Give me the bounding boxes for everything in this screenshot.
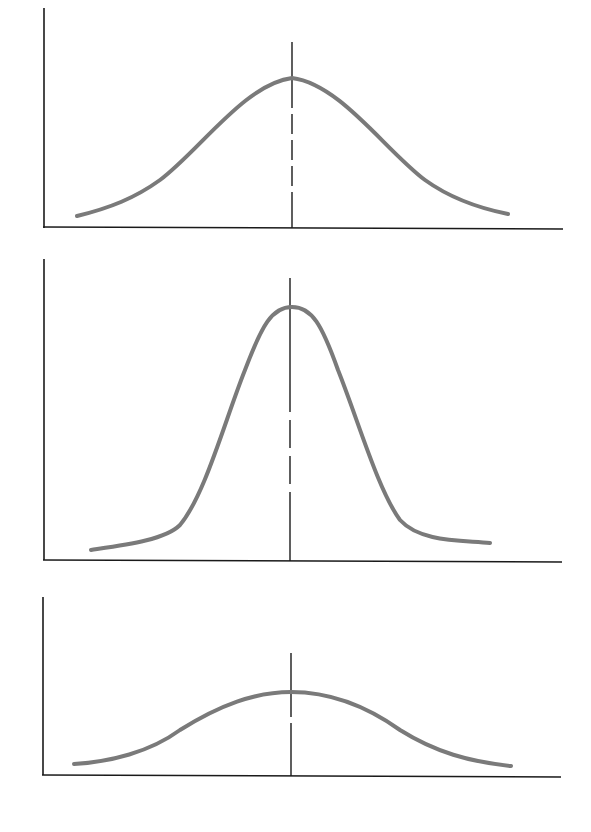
x-axis — [43, 227, 563, 229]
panel-mesokurtic — [43, 8, 563, 229]
x-axis — [42, 775, 561, 777]
x-axis — [43, 560, 562, 562]
panel-leptokurtic — [43, 259, 562, 562]
kurtosis-diagram — [0, 0, 591, 832]
distribution-curve — [74, 692, 511, 766]
panel-platykurtic — [42, 597, 561, 777]
